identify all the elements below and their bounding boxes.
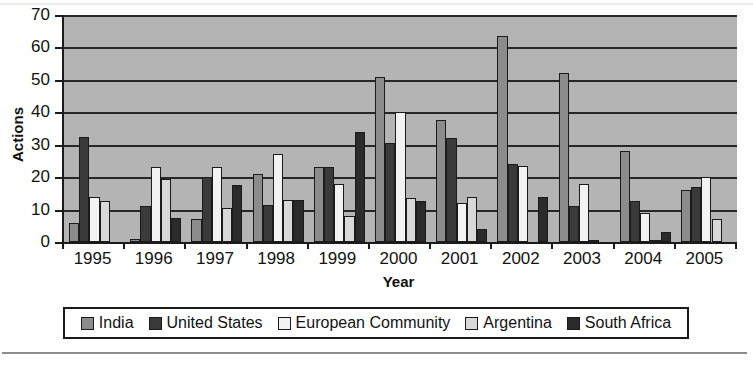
bar-group [69, 15, 120, 242]
bar [681, 190, 691, 242]
bar [191, 219, 201, 242]
legend-label: India [99, 314, 134, 332]
y-tick-mark [55, 112, 62, 114]
figure-container: Actions 010203040506070 1995199619971998… [0, 0, 753, 365]
bar-group [497, 15, 548, 242]
bar [691, 187, 701, 242]
bar [395, 112, 405, 242]
x-tick-mark [123, 242, 125, 249]
y-tick-label: 20 [16, 168, 50, 185]
x-tick-mark [368, 242, 370, 249]
bar [314, 167, 324, 242]
bar [630, 201, 640, 242]
bar-group [253, 15, 304, 242]
y-tick-label: 10 [16, 201, 50, 218]
y-tick-mark [55, 47, 62, 49]
bar [620, 151, 630, 242]
x-tick-mark [490, 242, 492, 249]
x-tick-label: 1999 [302, 249, 372, 269]
x-tick-mark [674, 242, 676, 249]
y-tick-mark [55, 242, 62, 244]
x-tick-mark [62, 242, 64, 249]
x-tick-label: 1996 [119, 249, 189, 269]
bar [151, 167, 161, 242]
legend-swatch-icon [465, 317, 478, 330]
bar [559, 73, 569, 242]
y-tick-label: 50 [16, 71, 50, 88]
bar [446, 138, 456, 242]
bar-group [130, 15, 181, 242]
x-tick-mark [429, 242, 431, 249]
x-tick-mark [184, 242, 186, 249]
legend-swatch-icon [278, 317, 291, 330]
legend-swatch-icon [81, 317, 94, 330]
y-tick-mark [55, 145, 62, 147]
y-tick-label: 40 [16, 103, 50, 120]
bar [79, 137, 89, 242]
bar [497, 36, 507, 242]
bar [273, 154, 283, 242]
bar [457, 203, 467, 242]
bar [538, 197, 548, 242]
x-tick-label: 2001 [425, 249, 495, 269]
bar [69, 223, 79, 242]
bar [222, 208, 232, 242]
bar [202, 177, 212, 242]
bar-group [191, 15, 242, 242]
bar [232, 185, 242, 242]
legend-item: European Community [278, 314, 451, 332]
legend-item: United States [149, 314, 263, 332]
y-tick-label: 0 [16, 233, 50, 250]
legend-label: Argentina [483, 314, 552, 332]
bar [355, 132, 365, 242]
y-tick-label: 60 [16, 38, 50, 55]
bar [293, 200, 303, 242]
bar [161, 179, 171, 242]
bar [385, 143, 395, 242]
x-axis-label: Year [62, 273, 735, 290]
bar [140, 206, 150, 242]
bar [661, 232, 671, 242]
x-tick-mark [735, 242, 737, 249]
bar [100, 201, 110, 242]
scan-top-rule [0, 3, 753, 5]
bar [171, 218, 181, 242]
scan-bottom-rule [2, 352, 747, 354]
plot-area [62, 15, 737, 244]
bar [344, 216, 354, 242]
legend-item: Argentina [465, 314, 552, 332]
x-tick-mark [307, 242, 309, 249]
x-tick-mark [551, 242, 553, 249]
x-tick-label: 1995 [58, 249, 128, 269]
bar-group [559, 15, 610, 242]
bar [640, 213, 650, 242]
bar [334, 184, 344, 242]
legend-item: South Africa [567, 314, 671, 332]
bar [406, 198, 416, 242]
bar [89, 197, 99, 242]
x-tick-label: 1997 [180, 249, 250, 269]
bar [263, 205, 273, 242]
bar [416, 201, 426, 242]
bar [701, 177, 711, 242]
legend-label: South Africa [585, 314, 671, 332]
x-tick-mark [613, 242, 615, 249]
legend-swatch-icon [149, 317, 162, 330]
bar [283, 200, 293, 242]
bar [508, 164, 518, 242]
legend-label: European Community [296, 314, 451, 332]
y-tick-label: 30 [16, 136, 50, 153]
x-tick-label: 2000 [364, 249, 434, 269]
bar-group [436, 15, 487, 242]
bar-chart: Actions 010203040506070 1995199619971998… [0, 8, 753, 298]
bar [436, 120, 446, 242]
bar [467, 197, 477, 242]
bar-group [375, 15, 426, 242]
bar [712, 219, 722, 242]
y-tick-mark [55, 177, 62, 179]
bar [579, 184, 589, 242]
x-tick-label: 1998 [241, 249, 311, 269]
x-tick-label: 2002 [486, 249, 556, 269]
legend-swatch-icon [567, 317, 580, 330]
bar [375, 77, 385, 242]
